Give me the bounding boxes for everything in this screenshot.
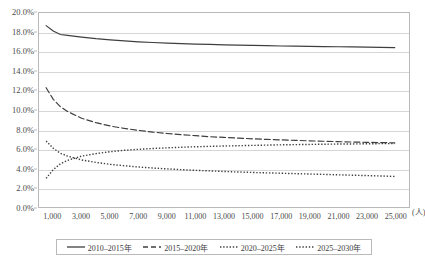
y-tick-mark <box>34 90 37 91</box>
legend-label: 2015–2020年 <box>164 242 208 253</box>
plot-area <box>38 12 410 208</box>
y-tick-mark <box>34 110 37 111</box>
legend-item-2[interactable]: 2015–2020年 <box>143 242 208 253</box>
x-tick-label: 15,000 <box>242 212 264 221</box>
x-tick-label: 3,000 <box>72 212 90 221</box>
y-tick-label: 20.0% <box>12 7 34 17</box>
y-tick-mark <box>34 168 37 169</box>
series-line-2 <box>46 88 395 143</box>
legend-label: 2010–2015年 <box>88 242 132 253</box>
x-tick-label: 9,000 <box>158 212 176 221</box>
x-tick-label: 11,000 <box>185 212 207 221</box>
dashed-line-icon <box>143 243 161 251</box>
y-tick-label: 10.0% <box>12 105 34 115</box>
y-tick-mark <box>34 70 37 71</box>
x-axis-unit-label: (人) <box>412 206 425 217</box>
y-tick-mark <box>34 208 37 209</box>
y-tick-label: 16.0% <box>12 46 34 56</box>
x-tick-label: 21,000 <box>327 212 349 221</box>
y-tick-mark <box>34 129 37 130</box>
legend-item-3[interactable]: 2020–2025年 <box>220 242 285 253</box>
y-tick-label: 6.0% <box>16 144 34 154</box>
y-tick-label: 4.0% <box>16 164 34 174</box>
y-tick-mark <box>34 31 37 32</box>
legend-item-4[interactable]: 2025–2030年 <box>296 242 361 253</box>
x-tick-label: 23,000 <box>356 212 378 221</box>
legend-label: 2020–2025年 <box>241 242 285 253</box>
y-tick-label: 2.0% <box>16 183 34 193</box>
y-tick-label: 12.0% <box>12 85 34 95</box>
series-line-1 <box>46 26 395 48</box>
x-tick-label: 17,000 <box>270 212 292 221</box>
chart-legend: 2010–2015年2015–2020年2020–2025年2025–2030年 <box>56 239 372 255</box>
dotted-line-icon <box>220 243 238 251</box>
x-tick-label: 25,000 <box>385 212 407 221</box>
y-tick-label: 18.0% <box>12 27 34 37</box>
chart-title <box>0 0 424 1</box>
solid-line-icon <box>67 243 85 251</box>
y-tick-mark <box>34 51 37 52</box>
x-tick-label: 7,000 <box>129 212 147 221</box>
legend-label: 2025–2030年 <box>317 242 361 253</box>
x-tick-label: 5,000 <box>101 212 119 221</box>
series-line-4 <box>46 144 395 179</box>
x-tick-label: 1,000 <box>43 212 61 221</box>
x-tick-label: 13,000 <box>213 212 235 221</box>
x-tick-label: 19,000 <box>299 212 321 221</box>
y-tick-mark <box>34 188 37 189</box>
dotted-line-icon <box>296 243 314 251</box>
y-tick-label: 8.0% <box>16 125 34 135</box>
y-tick-mark <box>34 12 37 13</box>
x-axis: 1,0003,0005,0007,0009,00011,00013,00015,… <box>38 210 410 224</box>
legend-item-1[interactable]: 2010–2015年 <box>67 242 132 253</box>
series-layer <box>39 13 409 207</box>
y-axis: 0.0%2.0%4.0%6.0%8.0%10.0%12.0%14.0%16.0%… <box>0 12 34 208</box>
y-tick-label: 0.0% <box>16 203 34 213</box>
y-tick-label: 14.0% <box>12 66 34 76</box>
y-tick-mark <box>34 149 37 150</box>
